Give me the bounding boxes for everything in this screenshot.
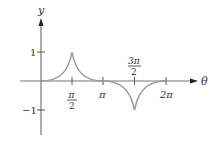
tick-label-neg1: −1 — [22, 105, 37, 116]
plot-svg: y θ 1 −1 π 2 π 3π 2 2π — [0, 0, 214, 146]
y-arrow-icon — [39, 18, 44, 26]
x-arrow-icon — [190, 79, 198, 84]
x-axis-label: θ — [201, 75, 208, 88]
tick-label-2pi: 2π — [159, 89, 173, 100]
tick-label-half-pi-num: π — [68, 90, 76, 100]
y-axis-label: y — [37, 4, 45, 17]
tick-label-1: 1 — [30, 47, 36, 58]
tick-label-half-pi-den: 2 — [69, 101, 75, 111]
tick-label-3half-pi-num: 3π — [128, 56, 141, 66]
tick-label-pi: π — [98, 89, 106, 100]
graph: y θ 1 −1 π 2 π 3π 2 2π — [0, 0, 214, 146]
tick-label-3half-pi-den: 2 — [131, 67, 137, 77]
